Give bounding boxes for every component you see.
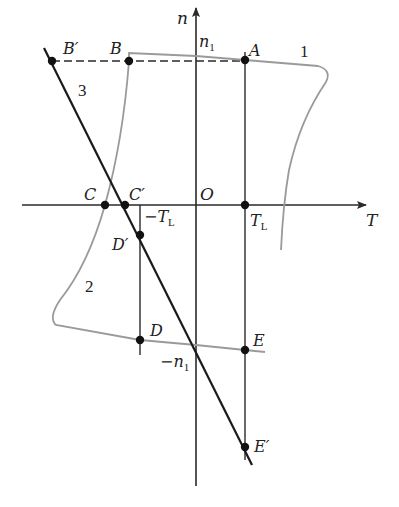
label-e: E: [252, 331, 265, 350]
origin-label: O: [200, 184, 214, 204]
n1-label: n1: [199, 32, 215, 53]
label-d: D: [149, 321, 163, 340]
point-c-prime: [121, 201, 129, 209]
point-d-prime: [136, 231, 144, 239]
label-e-prime: E′: [253, 437, 270, 456]
label-c: C: [84, 185, 96, 204]
point-e: [241, 346, 249, 354]
label-b-prime: B′: [62, 39, 79, 58]
label-a: A: [247, 41, 261, 60]
label-b: B: [109, 39, 122, 58]
point-b-prime: [48, 57, 56, 65]
point-c: [101, 201, 109, 209]
point-a: [241, 56, 249, 64]
label-c-prime: C′: [129, 185, 145, 204]
n-T-diagram: n T O n1 −n1 TL −TL B′ B A C C′ D′ D E E…: [0, 0, 399, 507]
neg-tl-label: −TL: [144, 207, 175, 228]
curve-1-top: [129, 53, 196, 61]
line-3-label: 3: [78, 81, 87, 100]
point-e-prime: [241, 443, 249, 451]
point-tl: [241, 201, 249, 209]
label-d-prime: D′: [111, 235, 129, 254]
neg-n1-label: −n1: [160, 352, 189, 373]
point-d: [136, 336, 144, 344]
curve-2-label: 2: [85, 277, 94, 296]
curve-1-label: 1: [300, 42, 309, 61]
n-axis-label: n: [177, 8, 188, 28]
line-3: [44, 48, 252, 465]
tl-label: TL: [250, 211, 268, 232]
t-axis-label: T: [366, 210, 379, 230]
point-b: [125, 57, 133, 65]
